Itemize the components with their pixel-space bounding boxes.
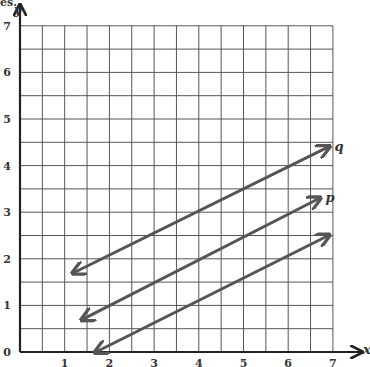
x-tick-label: 4 — [195, 357, 203, 367]
coordinate-plane: es.xy123456701234567qp — [0, 0, 370, 367]
x-tick-label: 5 — [240, 357, 248, 367]
grid — [20, 26, 333, 352]
y-tick-label: 1 — [3, 299, 11, 312]
y-axis-label: y — [13, 2, 23, 17]
y-tick-label: 5 — [3, 113, 11, 126]
y-tick-label: 6 — [3, 66, 11, 79]
y-tick-label: 0 — [3, 346, 11, 359]
x-tick-label: 1 — [61, 357, 69, 367]
y-tick-label: 7 — [3, 20, 11, 33]
y-tick-label: 3 — [3, 206, 11, 219]
line-label-p: p — [325, 190, 334, 205]
x-tick-label: 2 — [106, 357, 114, 367]
x-axis-label: x — [362, 342, 370, 357]
x-tick-label: 7 — [329, 357, 337, 367]
y-tick-label: 2 — [3, 253, 11, 266]
line-label-q: q — [334, 139, 343, 154]
x-tick-label: 6 — [284, 357, 292, 367]
y-tick-label: 4 — [3, 160, 11, 173]
x-tick-label: 3 — [150, 357, 158, 367]
